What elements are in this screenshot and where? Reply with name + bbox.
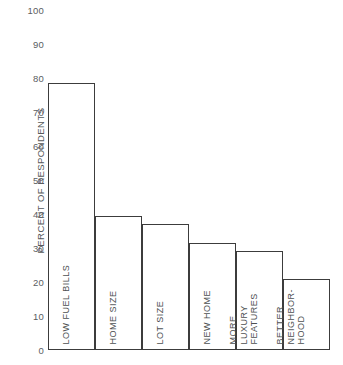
y-tick-label: 50 [0, 175, 44, 186]
y-tick-label: 70 [0, 107, 44, 118]
y-axis-tick-labels: 1009080706050403020100 [0, 0, 44, 365]
bar[interactable]: BETTERNEIGHBOR-HOOD [283, 279, 330, 350]
bar-label: HOME SIZE [108, 290, 119, 344]
bar-label-line: HOME SIZE [108, 290, 119, 344]
y-tick-label: 100 [0, 5, 44, 16]
bar-label-line: LOT SIZE [155, 300, 166, 344]
x-axis-line [48, 349, 330, 350]
bar-label-line: HOOD [296, 288, 307, 344]
bar-label: LOW FUEL BILLS [61, 264, 72, 344]
bar-label: NEW HOME [202, 290, 213, 345]
bar-series: LOW FUEL BILLSHOME SIZELOT SIZENEW HOMEM… [48, 10, 330, 350]
y-tick-label: 90 [0, 39, 44, 50]
bar-chart: PERCENT OF RESPONDENTS 10090807060504030… [0, 0, 343, 365]
bar-label-line: MORE [228, 293, 239, 344]
bar[interactable]: HOME SIZE [95, 216, 142, 350]
y-tick-label: 0 [0, 345, 44, 356]
bar-label-line: NEW HOME [202, 290, 213, 345]
bar-label-line: NEIGHBOR- [285, 288, 296, 344]
bar-label: MORELUXURYFEATURES [228, 293, 260, 344]
y-tick-label: 30 [0, 243, 44, 254]
bar-label-line: FEATURES [249, 293, 260, 344]
bar-label: LOT SIZE [155, 300, 166, 344]
bar-label-line: LOW FUEL BILLS [61, 264, 72, 344]
bar[interactable]: LOT SIZE [142, 224, 189, 350]
bar-label-line: LUXURY [238, 293, 249, 344]
bar[interactable]: LOW FUEL BILLS [48, 83, 95, 350]
bar-label: BETTERNEIGHBOR-HOOD [275, 288, 307, 344]
y-tick-label: 40 [0, 209, 44, 220]
y-tick-label: 60 [0, 141, 44, 152]
bar-label-line: BETTER [275, 288, 286, 344]
y-tick-label: 20 [0, 277, 44, 288]
plot-area: LOW FUEL BILLSHOME SIZELOT SIZENEW HOMEM… [48, 10, 330, 350]
y-tick-label: 10 [0, 311, 44, 322]
y-tick-label: 80 [0, 73, 44, 84]
